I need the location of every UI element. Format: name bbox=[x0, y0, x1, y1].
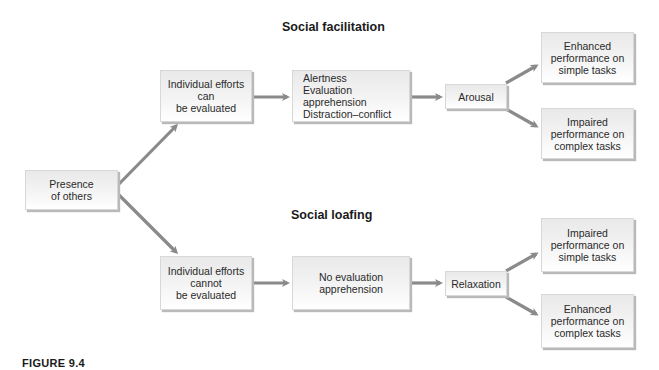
relaxation-node: Relaxation bbox=[445, 271, 507, 296]
presence-of-others-node: Presence of others bbox=[25, 170, 118, 210]
social-loafing-title: Social loafing bbox=[291, 208, 372, 222]
node-label: Enhanced performance on simple tasks bbox=[551, 40, 625, 76]
arrow-arousal-to-complex bbox=[506, 109, 536, 126]
enhanced-simple-tasks-node: Enhanced performance on simple tasks bbox=[541, 32, 634, 83]
arrow-relax-to-complex bbox=[506, 297, 536, 314]
facilitation-factors-node: Alertness Evaluation apprehension Distra… bbox=[292, 70, 410, 122]
node-label: Individual efforts cannot be evaluated bbox=[168, 265, 244, 301]
arrow-presence-to-can bbox=[118, 126, 176, 185]
node-label: No evaluation apprehension bbox=[319, 271, 383, 295]
node-label: Enhanced performance on complex tasks bbox=[551, 303, 625, 339]
efforts-cannot-be-evaluated-node: Individual efforts cannot be evaluated bbox=[160, 256, 252, 310]
figure-caption: FIGURE 9.4 bbox=[22, 357, 85, 369]
impaired-simple-tasks-node: Impaired performance on simple tasks bbox=[541, 218, 634, 272]
no-evaluation-apprehension-node: No evaluation apprehension bbox=[292, 256, 410, 310]
arousal-node: Arousal bbox=[445, 84, 507, 109]
efforts-can-be-evaluated-node: Individual efforts can be evaluated bbox=[160, 70, 252, 122]
impaired-complex-tasks-node: Impaired performance on complex tasks bbox=[541, 108, 634, 159]
node-label: Presence of others bbox=[49, 178, 93, 202]
node-label: Relaxation bbox=[451, 278, 501, 290]
node-label: Individual efforts can be evaluated bbox=[168, 78, 244, 114]
node-label: Impaired performance on simple tasks bbox=[551, 227, 625, 263]
node-label: Impaired performance on complex tasks bbox=[551, 116, 625, 152]
social-facilitation-title: Social facilitation bbox=[282, 20, 385, 34]
node-label: Alertness Evaluation apprehension Distra… bbox=[303, 72, 405, 120]
arrow-relax-to-simple bbox=[506, 254, 536, 271]
arrow-arousal-to-simple bbox=[506, 66, 536, 83]
arrow-presence-to-cannot bbox=[118, 194, 176, 252]
enhanced-complex-tasks-node: Enhanced performance on complex tasks bbox=[541, 294, 634, 348]
node-label: Arousal bbox=[458, 91, 494, 103]
